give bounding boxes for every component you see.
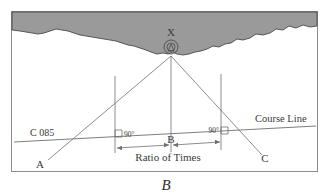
- label-point-b: B: [167, 133, 174, 145]
- figure-container: X A B C C 085 Course Line 90° 90° Ratio …: [0, 0, 330, 196]
- label-ratio-of-times: Ratio of Times: [135, 151, 200, 163]
- label-landmark-x: X: [167, 26, 175, 38]
- label-course-line: Course Line: [255, 113, 307, 124]
- label-angle-right: 90°: [209, 126, 220, 135]
- label-point-c: C: [261, 152, 268, 164]
- figure-caption: B: [161, 177, 170, 193]
- label-point-a: A: [36, 158, 44, 170]
- label-bearing: C 085: [30, 127, 54, 138]
- label-angle-left: 90°: [124, 130, 135, 139]
- navigation-diagram: X A B C C 085 Course Line 90° 90° Ratio …: [0, 0, 330, 196]
